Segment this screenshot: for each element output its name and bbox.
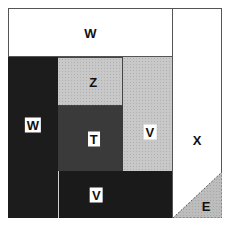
region-t: T [58,106,123,171]
label-e: E [202,200,211,213]
label-v-bottom: V [90,188,103,203]
label-x: X [193,134,202,147]
label-z: Z [87,75,99,90]
region-e [173,172,222,218]
label-w-left: W [25,117,41,132]
label-t: T [88,131,100,146]
label-w-top: W [84,26,96,39]
treemap-diagram: W X E W Z T V V [8,8,222,218]
region-v-right: V [123,57,172,171]
region-z: Z [58,57,123,106]
region-w-top: W [8,8,172,57]
label-v-right: V [144,125,157,140]
region-w-left: W [8,57,58,218]
region-v-bottom: V [58,171,172,218]
